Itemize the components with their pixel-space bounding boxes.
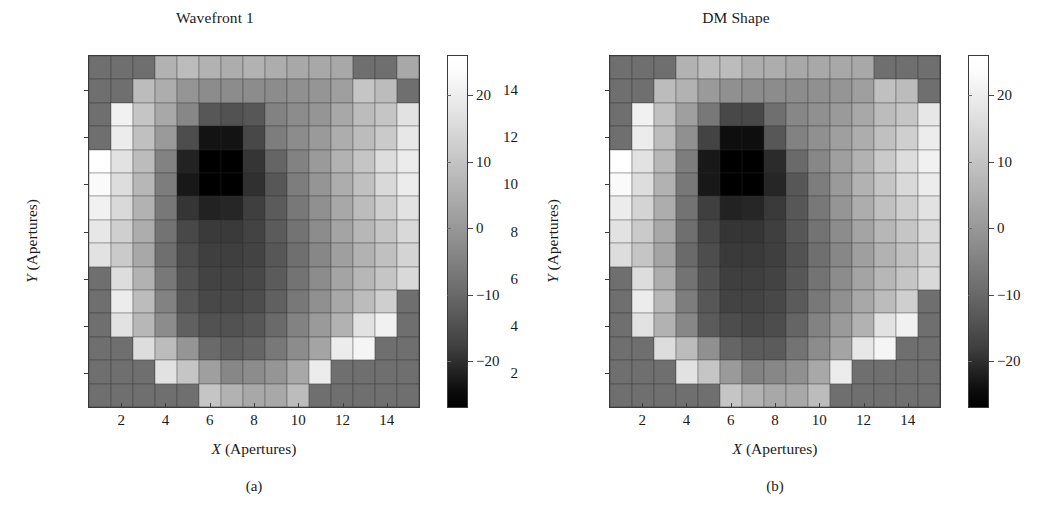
heatmap-cell [155,360,177,383]
heatmap-cell [287,290,309,313]
heatmap-cell [654,150,676,173]
heatmap-cell [764,290,786,313]
heatmap-cell [896,360,918,383]
heatmap-cell [610,196,632,219]
heatmap-cell [654,220,676,243]
heatmap-cell [265,313,287,336]
heatmap-cell [353,313,375,336]
heatmap-cell [918,79,940,102]
heatmap-cell [309,79,331,102]
heatmap-cell [610,313,632,336]
heatmap-cell [111,196,133,219]
heatmap-cell [309,384,331,407]
heatmap-cell [111,173,133,196]
heatmap-cell [918,103,940,126]
heatmap-cell [243,196,265,219]
heatmap-cell [177,56,199,79]
heatmap-cell [309,56,331,79]
heatmap-cell [808,290,830,313]
heatmap-cell [830,360,852,383]
heatmap-cell [375,360,397,383]
heatmap-cell [265,267,287,290]
heatmap-cell [786,243,808,266]
heatmap-cell [720,126,742,149]
y-tick-mark [605,279,610,280]
heatmap-cell [830,337,852,360]
x-tick-mark [864,403,865,408]
heatmap-cell [808,360,830,383]
heatmap-cell [610,360,632,383]
panel-a-heatmap [89,56,419,407]
heatmap-cell [632,243,654,266]
heatmap-cell [265,79,287,102]
heatmap-cell [896,103,918,126]
heatmap-cell [896,267,918,290]
heatmap-cell [221,313,243,336]
heatmap-cell [353,337,375,360]
heatmap-cell [397,384,419,407]
heatmap-cell [720,243,742,266]
heatmap-cell [353,267,375,290]
heatmap-cell [610,384,632,407]
x-tick-mark [254,403,255,408]
colorbar-tick-mark-inner [447,228,451,229]
heatmap-cell [676,103,698,126]
x-tick-label: 2 [622,412,662,429]
heatmap-cell [808,103,830,126]
heatmap-cell [808,56,830,79]
heatmap-cell [764,196,786,219]
heatmap-cell [830,267,852,290]
heatmap-cell [786,360,808,383]
heatmap-cell [786,313,808,336]
heatmap-cell [111,150,133,173]
heatmap-cell [331,173,353,196]
heatmap-cell [265,103,287,126]
colorbar-tick-mark-inner [968,95,972,96]
heatmap-cell [808,337,830,360]
heatmap-cell [676,56,698,79]
heatmap-cell [111,290,133,313]
heatmap-cell [698,103,720,126]
heatmap-cell [698,220,720,243]
y-tick-mark [605,373,610,374]
heatmap-cell [287,220,309,243]
x-tick-mark [387,403,388,408]
heatmap-cell [918,150,940,173]
x-tick-label: 8 [755,412,795,429]
heatmap-cell [331,196,353,219]
x-tick-label: 10 [799,412,839,429]
heatmap-cell [287,267,309,290]
heatmap-cell [111,79,133,102]
x-tick-label: 12 [844,412,884,429]
heatmap-cell [830,79,852,102]
x-tick-mark [908,403,909,408]
x-tick-mark [642,403,643,408]
heatmap-cell [155,79,177,102]
heatmap-cell [874,290,896,313]
heatmap-cell [720,103,742,126]
heatmap-cell [177,220,199,243]
heatmap-cell [830,103,852,126]
heatmap-cell [221,150,243,173]
y-tick-mark [84,232,89,233]
heatmap-cell [177,384,199,407]
heatmap-cell [654,337,676,360]
heatmap-cell [786,220,808,243]
heatmap-cell [221,126,243,149]
heatmap-cell [199,220,221,243]
heatmap-cell [742,290,764,313]
heatmap-cell [742,267,764,290]
heatmap-cell [808,267,830,290]
heatmap-cell [243,150,265,173]
heatmap-cell [397,360,419,383]
y-tick-mark [605,90,610,91]
colorbar-tick-mark-inner [968,295,972,296]
heatmap-cell [742,243,764,266]
colorbar-tick-mark-inner [968,228,972,229]
colorbar-tick-mark [468,162,473,163]
heatmap-cell [287,313,309,336]
heatmap-cell [874,220,896,243]
heatmap-cell [918,384,940,407]
heatmap-cell [133,56,155,79]
panel-a-x-axis-label-var: X [212,440,221,457]
